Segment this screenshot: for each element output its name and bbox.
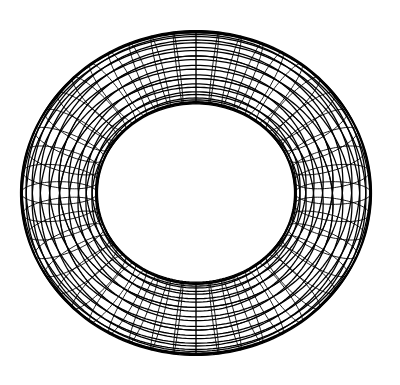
torus-wireframe: Wireframe Torus Black wireframe mesh ren… bbox=[0, 0, 400, 385]
inner-silhouette bbox=[97, 102, 295, 284]
figure-canvas: Wireframe Torus Black wireframe mesh ren… bbox=[0, 0, 400, 385]
